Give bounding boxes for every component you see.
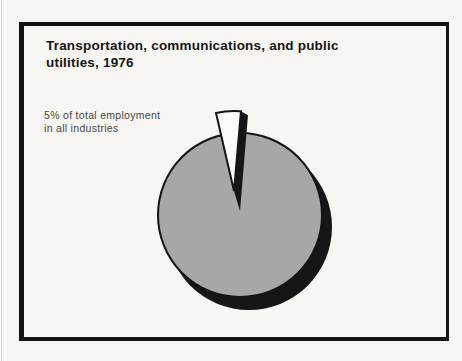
page: Transportation, communications, and publ… [0, 0, 462, 361]
pie-chart [0, 0, 462, 361]
